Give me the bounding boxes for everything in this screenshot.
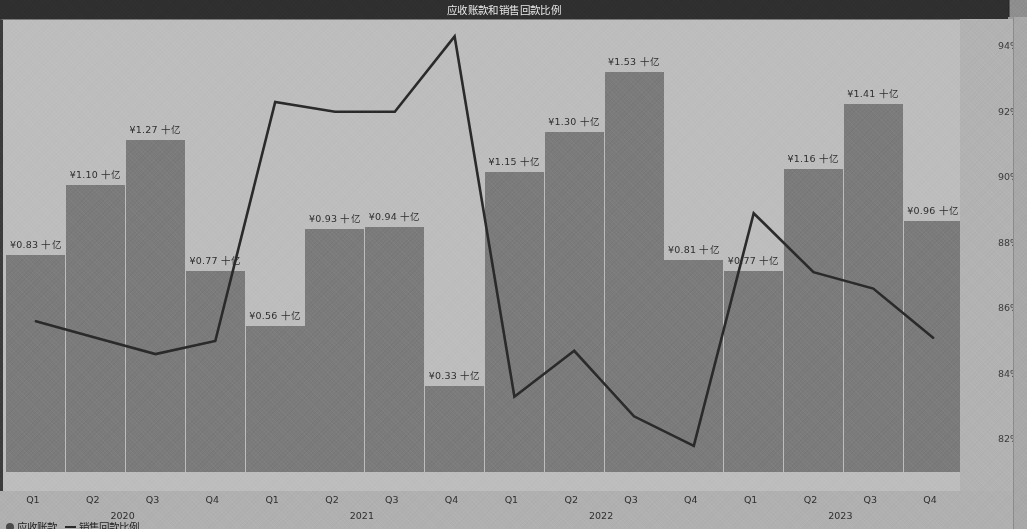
window-controls-area[interactable]: [1009, 0, 1027, 17]
bar-rect[interactable]: [485, 172, 544, 472]
bar-item[interactable]: ¥1.16 十亿: [784, 20, 843, 472]
bar-rect[interactable]: [664, 260, 723, 472]
bar-rect[interactable]: [365, 227, 424, 473]
legend-dot-icon: [6, 523, 14, 529]
legend-label: 应收账款: [17, 519, 57, 529]
bar-value-label: ¥0.94 十亿: [369, 209, 421, 223]
bar-item[interactable]: ¥1.41 十亿: [844, 20, 903, 472]
chart-panel: ¥0.83 十亿¥1.10 十亿¥1.27 十亿¥0.77 十亿¥0.56 十亿…: [0, 19, 1027, 529]
x-tick-label: Q2: [302, 494, 361, 505]
x-tick-label: Q2: [63, 494, 122, 505]
legend-item[interactable]: 销售回款比例: [65, 519, 139, 529]
x-tick-label: Q1: [482, 494, 541, 505]
x-tick-label: Q4: [901, 494, 960, 505]
bar-item[interactable]: ¥1.10 十亿: [66, 20, 125, 472]
x-tick-label: Q3: [841, 494, 900, 505]
bar-rect[interactable]: [904, 221, 963, 472]
bar-item[interactable]: ¥1.30 十亿: [545, 20, 604, 472]
bar-rect[interactable]: [305, 229, 364, 472]
x-tick-label: Q4: [422, 494, 481, 505]
bar-value-label: ¥0.33 十亿: [429, 368, 481, 382]
bar-rect[interactable]: [605, 72, 664, 472]
bar-item[interactable]: ¥0.96 十亿: [904, 20, 963, 472]
x-tick-label: Q3: [362, 494, 421, 505]
x-group-label: 2023: [828, 510, 852, 521]
bar-rect[interactable]: [844, 104, 903, 472]
bar-rect[interactable]: [66, 185, 125, 472]
bar-rect[interactable]: [126, 140, 185, 472]
x-group-label: 2022: [589, 510, 613, 521]
bar-value-label: ¥1.10 十亿: [70, 167, 122, 181]
bar-rect[interactable]: [425, 386, 484, 472]
bar-value-label: ¥0.83 十亿: [10, 237, 62, 251]
x-tick-label: Q2: [781, 494, 840, 505]
plot-area: ¥0.83 十亿¥1.10 十亿¥1.27 十亿¥0.77 十亿¥0.56 十亿…: [0, 19, 960, 491]
bar-rect[interactable]: [724, 271, 783, 472]
x-tick-label: Q4: [661, 494, 720, 505]
x-group-label: 2021: [350, 510, 374, 521]
bar-item[interactable]: ¥0.77 十亿: [724, 20, 783, 472]
chart-title: 应收账款和销售回款比例: [447, 2, 561, 17]
bar-rect[interactable]: [6, 255, 65, 472]
bar-series-layer: ¥0.83 十亿¥1.10 十亿¥1.27 十亿¥0.77 十亿¥0.56 十亿…: [6, 20, 963, 472]
category-axis: Q1Q2Q3Q4Q1Q2Q3Q4Q1Q2Q3Q4Q1Q2Q3Q4 2020202…: [0, 491, 1027, 529]
bar-item[interactable]: ¥0.77 十亿: [186, 20, 245, 472]
bar-rect[interactable]: [545, 132, 604, 472]
bar-value-label: ¥0.56 十亿: [249, 308, 301, 322]
bar-item[interactable]: ¥0.56 十亿: [246, 20, 305, 472]
bar-value-label: ¥1.27 十亿: [130, 122, 182, 136]
bar-item[interactable]: ¥0.33 十亿: [425, 20, 484, 472]
bar-value-label: ¥0.77 十亿: [728, 253, 780, 267]
bar-value-label: ¥1.16 十亿: [788, 151, 840, 165]
x-tick-label: Q2: [542, 494, 601, 505]
bar-item[interactable]: ¥0.94 十亿: [365, 20, 424, 472]
bar-value-label: ¥1.15 十亿: [488, 154, 540, 168]
bar-value-label: ¥0.77 十亿: [189, 253, 241, 267]
bar-value-label: ¥1.41 十亿: [847, 86, 899, 100]
bar-item[interactable]: ¥1.53 十亿: [605, 20, 664, 472]
legend-line-icon: [65, 526, 76, 528]
bar-item[interactable]: ¥0.83 十亿: [6, 20, 65, 472]
bar-rect[interactable]: [186, 271, 245, 472]
bar-value-label: ¥1.30 十亿: [548, 114, 600, 128]
bar-value-label: ¥0.93 十亿: [309, 211, 361, 225]
bar-item[interactable]: ¥1.27 十亿: [126, 20, 185, 472]
bar-item[interactable]: ¥1.15 十亿: [485, 20, 544, 472]
bar-rect[interactable]: [784, 169, 843, 472]
legend-item[interactable]: 应收账款: [6, 519, 57, 529]
legend-label: 销售回款比例: [79, 519, 139, 529]
chart-legend: 应收账款销售回款比例: [6, 519, 139, 529]
bar-value-label: ¥0.96 十亿: [907, 203, 959, 217]
x-tick-label: Q1: [3, 494, 62, 505]
bar-item[interactable]: ¥0.81 十亿: [664, 20, 723, 472]
x-tick-label: Q1: [721, 494, 780, 505]
bar-value-label: ¥1.53 十亿: [608, 54, 660, 68]
bar-rect[interactable]: [246, 326, 305, 472]
vertical-scrollbar[interactable]: [1013, 17, 1027, 529]
bar-value-label: ¥0.81 十亿: [668, 242, 720, 256]
window-title-bar: 应收账款和销售回款比例: [0, 0, 1008, 19]
x-tick-label: Q3: [123, 494, 182, 505]
x-tick-label: Q1: [243, 494, 302, 505]
x-tick-label: Q3: [602, 494, 661, 505]
bar-item[interactable]: ¥0.93 十亿: [305, 20, 364, 472]
x-tick-label: Q4: [183, 494, 242, 505]
